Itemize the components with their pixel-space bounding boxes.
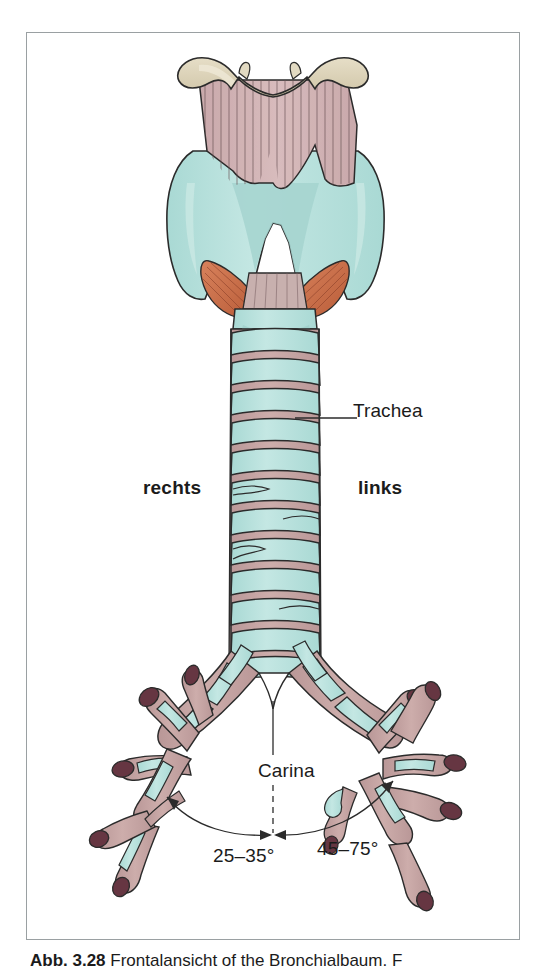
figure-caption-text: Frontalansicht of the Bronchialbaum. F xyxy=(110,951,402,966)
label-trachea: Trachea xyxy=(353,401,423,420)
carina-notch xyxy=(259,673,289,709)
left-curl-twig xyxy=(325,789,343,817)
cricothyroid-muscle-group xyxy=(201,261,349,333)
figure-caption: Abb. 3.28 Frontalansicht of the Bronchia… xyxy=(30,950,530,966)
figure-caption-number: Abb. 3.28 xyxy=(30,951,106,966)
trachea-group xyxy=(229,329,321,682)
angle-measure-right xyxy=(167,797,272,840)
label-orientation-left: links xyxy=(358,478,402,497)
left-lateral-cartilage xyxy=(395,760,435,772)
hyoid-lesser-horn-left xyxy=(239,62,250,79)
carina-bifurcation xyxy=(259,673,289,709)
label-orientation-right: rechts xyxy=(143,478,201,497)
figure-frame: Trachea rechts links Carina 25–35° 45–75… xyxy=(26,32,520,940)
label-angle-right-bronchus: 25–35° xyxy=(213,846,275,865)
label-carina: Carina xyxy=(258,761,315,780)
right-bronchial-branches xyxy=(87,663,213,899)
angle-arrowhead-left-inner xyxy=(274,830,286,840)
label-angle-left-bronchus: 45–75° xyxy=(317,839,379,858)
hyoid-lesser-horn-right xyxy=(290,62,301,79)
cricoid-cartilage xyxy=(233,309,317,329)
bronchial-tree-illustration xyxy=(27,33,519,939)
angle-arrowhead-right-inner xyxy=(260,830,272,840)
